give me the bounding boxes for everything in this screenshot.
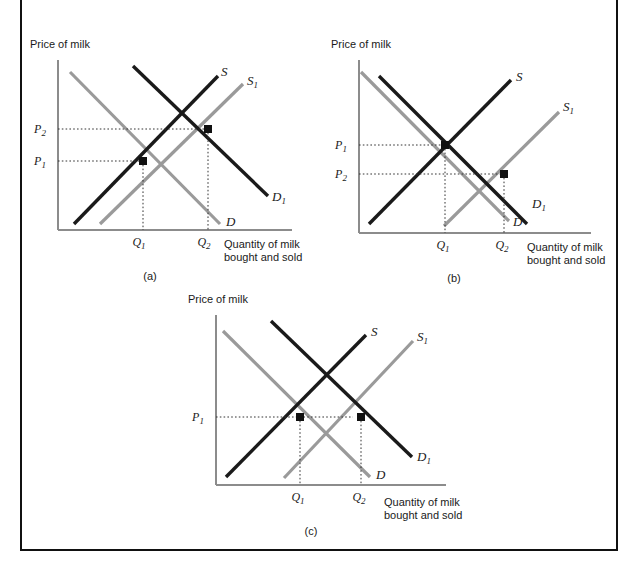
panel-b-tick-Q2-sub: 2 — [504, 244, 509, 254]
panel-b-tick-P2-sub: 2 — [342, 173, 347, 183]
panel-a-label-D1: D1 — [271, 189, 286, 206]
panel-b-caption: (b) — [434, 272, 474, 284]
panel-c-caption: (c) — [291, 525, 331, 537]
panel-a-y-axis-title: Price of milk — [30, 38, 90, 51]
panel-b-label-S1-sub: 1 — [570, 106, 575, 116]
panel-a-tick-Q1: Q1 — [132, 235, 145, 251]
panel-a-tick-P2: P2 — [33, 122, 46, 138]
panel-c-y-axis-title: Price of milk — [188, 293, 248, 306]
figure-root: Price of milk Quantity of milk bought an… — [0, 0, 638, 571]
panel-a-equilibrium-marker-2 — [204, 125, 212, 133]
panel-b-tick-P1: P1 — [334, 138, 347, 154]
panel-c-tick-Q2-sub: 2 — [361, 496, 366, 506]
panel-a-label-D: D — [225, 214, 236, 229]
panel-c-tick-Q1-base: Q — [291, 490, 300, 504]
panel-c-label-D1-sub: 1 — [426, 456, 431, 466]
panel-c-tick-Q2: Q2 — [352, 490, 366, 506]
panel-c-tick-Q1-sub: 1 — [300, 496, 305, 506]
panel-a-tick-P1-sub: 1 — [41, 160, 46, 170]
panel-b-equilibrium-marker-2 — [500, 170, 508, 178]
panel-c-plot: S S1 D D1 P1 Q1 Q2 — [188, 309, 478, 541]
panel-c-label-D1-base: D — [416, 449, 427, 464]
panel-a-tick-Q1-base: Q — [132, 235, 141, 249]
panel-c-label-S1-sub: 1 — [424, 336, 429, 346]
panel-b-tick-Q1-base: Q — [436, 238, 445, 252]
panel-b-curve-D — [361, 72, 509, 221]
panel-c-tick-Q1: Q1 — [291, 490, 304, 506]
panel-c-label-S1: S1 — [417, 329, 428, 346]
panel-b-plot: S S1 D D1 P1 P2 Q1 Q2 — [331, 54, 621, 286]
panel-b-tick-P2: P2 — [334, 167, 347, 183]
panel-b-label-D: D — [512, 214, 523, 229]
panel-b-label-D1-base: D — [531, 196, 542, 211]
panel-b-tick-Q2: Q2 — [495, 238, 509, 254]
panel-b-equilibrium-marker-1 — [441, 141, 449, 149]
panel-b-tick-Q2-base: Q — [495, 238, 504, 252]
panel-a-tick-Q1-sub: 1 — [141, 241, 146, 251]
panel-a-tick-P1: P1 — [33, 154, 46, 170]
panel-a-equilibrium-marker-1 — [139, 157, 147, 165]
panel-a-tick-P2-sub: 2 — [41, 128, 46, 138]
panel-c-equilibrium-marker-2 — [357, 413, 365, 421]
panel-b-tick-Q1-sub: 1 — [445, 244, 450, 254]
panel-b-label-D1-sub: 1 — [541, 203, 546, 213]
panel-a-label-D1-base: D — [271, 189, 282, 204]
panel-b-tick-Q1: Q1 — [436, 238, 449, 254]
panel-a-label-S1: S1 — [247, 73, 258, 90]
panel-a-tick-Q2-sub: 2 — [206, 241, 211, 251]
panel-b-label-S: S — [516, 69, 523, 84]
panel-a-label-S: S — [221, 64, 228, 79]
panel-c-tick-P1: P1 — [191, 410, 204, 426]
panel-c-label-S: S — [371, 324, 378, 339]
panel-c-label-D: D — [375, 467, 386, 482]
panel-c-tick-P1-sub: 1 — [199, 416, 204, 426]
panel-a-label-S1-sub: 1 — [254, 80, 259, 90]
panel-b-curve-D1 — [379, 76, 527, 224]
panel-a-label-D1-sub: 1 — [281, 196, 286, 206]
panel-a-plot: S S1 D D1 P2 P1 Q1 Q2 — [30, 54, 320, 284]
panel-a-tick-Q2-base: Q — [197, 235, 206, 249]
panel-a-caption: (a) — [130, 270, 170, 282]
panel-a-tick-Q2: Q2 — [197, 235, 211, 251]
panel-c-equilibrium-marker-1 — [296, 413, 304, 421]
panel-c-tick-Q2-base: Q — [352, 490, 361, 504]
panel-c-label-D1: D1 — [416, 449, 431, 466]
panel-b-tick-P1-sub: 1 — [342, 144, 347, 154]
panel-b-y-axis-title: Price of milk — [331, 38, 391, 51]
panel-b-label-S1: S1 — [563, 99, 574, 116]
panel-b-label-D1: D1 — [531, 196, 546, 213]
panel-c-curve-D1 — [271, 321, 412, 457]
